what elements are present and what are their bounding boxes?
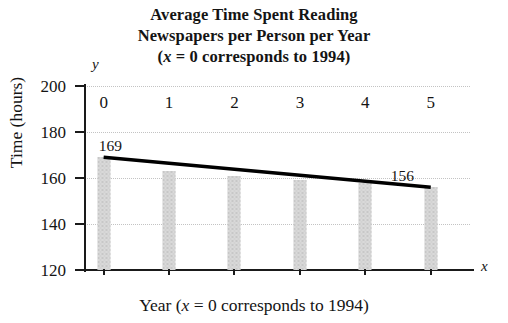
chart-title-line-2: Newspapers per Person per Year: [0, 25, 508, 46]
x-axis-tick: [168, 269, 170, 275]
x-axis-tick-label: 3: [296, 94, 305, 111]
x-axis-tick-label: 4: [361, 94, 370, 111]
x-axis-title-suffix: = 0 corresponds to 1994): [189, 295, 369, 315]
chart-title-line-3-suffix: = 0 corresponds to 1994): [172, 47, 351, 66]
x-axis-title-prefix: Year (: [139, 295, 181, 315]
x-axis-tick: [103, 269, 105, 275]
y-axis-tick-label: 120: [41, 262, 67, 279]
y-axis-tick-label: 140: [41, 216, 67, 233]
x-axis-tick: [233, 269, 235, 275]
chart-title-variable-x: x: [163, 47, 171, 66]
y-axis-tick-label: 160: [41, 170, 67, 187]
x-axis-tick: [299, 269, 301, 275]
x-axis-tick: [430, 269, 432, 275]
chart-title-line-3: (x = 0 corresponds to 1994): [0, 46, 508, 67]
x-axis-tick-label: 1: [165, 94, 174, 111]
plot-area: 120140160180200 012345 169156: [84, 86, 470, 270]
x-axis-tick-label: 5: [426, 94, 435, 111]
x-axis-glyph: x: [481, 258, 488, 275]
x-axis-tick: [364, 269, 366, 275]
data-label-first: 169: [99, 138, 122, 154]
chart-figure: Average Time Spent Reading Newspapers pe…: [0, 0, 508, 323]
y-axis-tick-label: 200: [41, 78, 67, 95]
y-axis-title: Time (hours): [6, 43, 27, 203]
x-axis-tick-label: 0: [99, 94, 108, 111]
y-axis-glyph: y: [92, 56, 99, 73]
x-axis-tick-label: 2: [230, 94, 239, 111]
chart-title: Average Time Spent Reading Newspapers pe…: [0, 4, 508, 67]
trend-line-segment: [104, 157, 431, 187]
data-label-last: 156: [391, 168, 414, 184]
chart-title-line-1: Average Time Spent Reading: [0, 4, 508, 25]
x-axis-title: Year (x = 0 corresponds to 1994): [0, 295, 508, 316]
y-axis-tick-label: 180: [41, 124, 67, 141]
